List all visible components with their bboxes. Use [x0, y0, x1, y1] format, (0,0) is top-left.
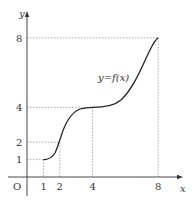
- x-axis-label: x: [180, 183, 186, 194]
- origin-label: O: [13, 181, 21, 192]
- curve-f: [43, 38, 158, 160]
- x-tick-4: 4: [90, 181, 96, 192]
- y-tick-2: 2: [16, 137, 22, 148]
- y-tick-4: 4: [16, 102, 22, 113]
- x-tick-1: 1: [41, 181, 47, 192]
- y-tick-1: 1: [16, 154, 22, 165]
- axes: [8, 14, 180, 196]
- function-graph: y x O 1 2 4 8 1 2 4 8 y=f(x): [0, 0, 192, 200]
- x-axis-arrow-icon: [177, 175, 183, 179]
- y-axis-arrow-icon: [25, 11, 29, 17]
- x-tick-2: 2: [57, 181, 63, 192]
- x-tick-8: 8: [155, 181, 161, 192]
- curve-label: y=f(x): [97, 72, 129, 83]
- y-axis-label: y: [18, 8, 25, 19]
- y-tick-8: 8: [16, 33, 22, 44]
